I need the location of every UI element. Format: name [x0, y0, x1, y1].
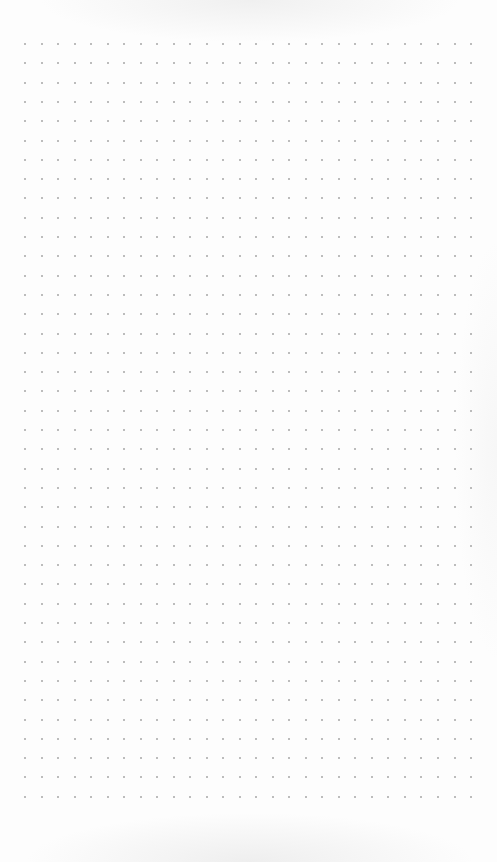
grid-dot — [74, 603, 76, 605]
grid-dot — [437, 603, 439, 605]
grid-dot — [321, 255, 323, 257]
grid-dot — [454, 487, 456, 489]
grid-dot — [41, 62, 43, 64]
grid-dot — [74, 622, 76, 624]
grid-dot — [470, 487, 472, 489]
grid-dot — [24, 622, 26, 624]
grid-dot — [24, 699, 26, 701]
grid-dot — [24, 294, 26, 296]
grid-dot — [107, 82, 109, 84]
grid-dot — [437, 699, 439, 701]
grid-dot — [156, 313, 158, 315]
grid-dot — [74, 719, 76, 721]
grid-dot — [24, 197, 26, 199]
grid-dot — [90, 603, 92, 605]
grid-dot — [222, 757, 224, 759]
grid-dot — [24, 313, 26, 315]
grid-dot — [371, 719, 373, 721]
grid-dot — [24, 757, 26, 759]
grid-dot — [437, 545, 439, 547]
grid-dot — [24, 333, 26, 335]
grid-dot — [74, 564, 76, 566]
grid-dot — [437, 101, 439, 103]
grid-dot — [321, 159, 323, 161]
grid-dot — [239, 757, 241, 759]
grid-dot — [338, 738, 340, 740]
grid-dot — [338, 43, 340, 45]
grid-dot — [173, 468, 175, 470]
grid-dot — [288, 159, 290, 161]
grid-dot — [470, 159, 472, 161]
grid-dot — [288, 564, 290, 566]
grid-dot — [140, 680, 142, 682]
grid-dot — [338, 62, 340, 64]
grid-dot — [437, 371, 439, 373]
grid-dot — [140, 101, 142, 103]
grid-dot — [222, 526, 224, 528]
grid-dot — [57, 429, 59, 431]
grid-dot — [404, 294, 406, 296]
grid-dot — [387, 448, 389, 450]
grid-dot — [206, 82, 208, 84]
grid-dot — [239, 719, 241, 721]
grid-dot — [420, 390, 422, 392]
grid-dot — [222, 333, 224, 335]
grid-dot — [387, 197, 389, 199]
grid-dot — [321, 197, 323, 199]
grid-dot — [470, 641, 472, 643]
grid-dot — [57, 719, 59, 721]
grid-dot — [222, 197, 224, 199]
grid-dot — [90, 371, 92, 373]
grid-dot — [454, 583, 456, 585]
grid-dot — [74, 101, 76, 103]
grid-dot — [107, 120, 109, 122]
grid-dot — [338, 526, 340, 528]
grid-dot — [437, 43, 439, 45]
grid-dot — [404, 429, 406, 431]
grid-dot — [470, 545, 472, 547]
grid-dot — [470, 622, 472, 624]
grid-dot — [305, 313, 307, 315]
grid-dot — [354, 603, 356, 605]
grid-dot — [189, 255, 191, 257]
grid-dot — [371, 371, 373, 373]
grid-dot — [57, 410, 59, 412]
grid-dot — [305, 680, 307, 682]
grid-dot — [338, 796, 340, 798]
grid-dot — [255, 275, 257, 277]
grid-dot — [156, 622, 158, 624]
grid-dot — [156, 82, 158, 84]
grid-dot — [420, 82, 422, 84]
grid-dot — [222, 140, 224, 142]
grid-dot — [173, 622, 175, 624]
grid-dot — [222, 583, 224, 585]
grid-dot — [338, 429, 340, 431]
grid-dot — [371, 82, 373, 84]
grid-dot — [288, 622, 290, 624]
grid-dot — [387, 526, 389, 528]
grid-dot — [222, 468, 224, 470]
grid-dot — [57, 545, 59, 547]
grid-dot — [288, 178, 290, 180]
grid-dot — [173, 197, 175, 199]
grid-dot — [470, 275, 472, 277]
grid-dot — [123, 506, 125, 508]
grid-dot — [74, 526, 76, 528]
grid-dot — [173, 82, 175, 84]
grid-dot — [288, 796, 290, 798]
grid-dot — [321, 217, 323, 219]
grid-dot — [371, 641, 373, 643]
grid-dot — [57, 178, 59, 180]
grid-dot — [321, 62, 323, 64]
grid-dot — [41, 294, 43, 296]
grid-dot — [173, 757, 175, 759]
grid-dot — [404, 699, 406, 701]
grid-dot — [387, 661, 389, 663]
grid-dot — [338, 622, 340, 624]
grid-dot — [354, 757, 356, 759]
grid-dot — [173, 333, 175, 335]
grid-dot — [189, 410, 191, 412]
grid-dot — [288, 776, 290, 778]
grid-dot — [41, 776, 43, 778]
grid-dot — [206, 776, 208, 778]
